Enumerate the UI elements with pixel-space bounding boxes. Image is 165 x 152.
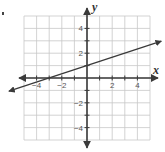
y-tick-label: −4 — [74, 124, 84, 133]
y-axis-label: y — [90, 0, 98, 14]
x-tick-label: 2 — [110, 81, 115, 90]
y-tick-label: 4 — [79, 24, 84, 33]
x-tick-label: −2 — [57, 81, 67, 90]
y-tick-label: 2 — [79, 49, 84, 58]
x-axis-label: x — [152, 63, 159, 77]
x-tick-label: 4 — [135, 81, 140, 90]
coordinate-plane: −4−22442−2−4 x y — [0, 0, 165, 152]
x-tick-label: −4 — [32, 81, 42, 90]
y-tick-label: −2 — [74, 99, 84, 108]
